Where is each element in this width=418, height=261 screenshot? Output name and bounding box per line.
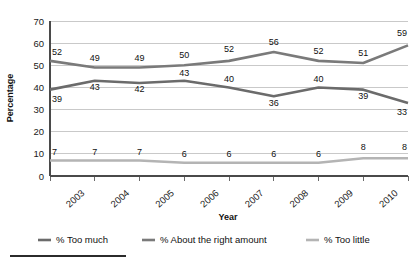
- data-label: 6: [226, 149, 231, 159]
- data-label: 8: [402, 142, 407, 152]
- legend-item-1[interactable]: % About the right amount: [142, 234, 267, 245]
- data-label: 59: [397, 28, 407, 38]
- percentage-by-year-line-chart: 010203040506070 200320042005200620072008…: [0, 0, 418, 261]
- data-label: 52: [52, 47, 62, 57]
- y-tick-label: 40: [33, 82, 44, 93]
- data-label: 7: [52, 147, 57, 157]
- data-label: 43: [179, 68, 189, 78]
- data-label: 40: [313, 74, 323, 84]
- x-axis-title: Year: [218, 212, 238, 222]
- data-label: 50: [179, 50, 189, 60]
- data-label: 51: [358, 48, 368, 58]
- data-label: 43: [90, 82, 100, 92]
- data-label: 42: [134, 84, 144, 94]
- data-label: 52: [313, 46, 323, 56]
- data-label: 33: [397, 107, 407, 117]
- data-label: 39: [52, 94, 62, 104]
- legend-label: % Too little: [324, 234, 370, 245]
- data-label: 52: [224, 44, 234, 54]
- legend-label: % Too much: [56, 234, 108, 245]
- legend-label: % About the right amount: [160, 234, 267, 245]
- y-tick-label: 20: [33, 126, 44, 137]
- data-label: 36: [269, 98, 279, 108]
- data-label: 8: [361, 142, 366, 152]
- data-label: 6: [271, 149, 276, 159]
- y-tick-label: 70: [33, 16, 44, 27]
- y-tick-label: 30: [33, 104, 44, 115]
- data-label: 6: [316, 149, 321, 159]
- data-label: 49: [134, 53, 144, 63]
- data-label: 39: [358, 91, 368, 101]
- y-tick-label: 60: [33, 38, 44, 49]
- data-label: 7: [92, 147, 97, 157]
- data-label: 40: [224, 74, 234, 84]
- y-tick-label: 10: [33, 148, 44, 159]
- y-tick-label: 0: [39, 171, 44, 182]
- data-label: 56: [269, 37, 279, 47]
- data-label: 6: [182, 149, 187, 159]
- chart-background: [0, 0, 418, 261]
- data-label: 49: [90, 53, 100, 63]
- y-axis-title: Percentage: [5, 74, 15, 123]
- data-label: 7: [137, 147, 142, 157]
- y-tick-label: 50: [33, 60, 44, 71]
